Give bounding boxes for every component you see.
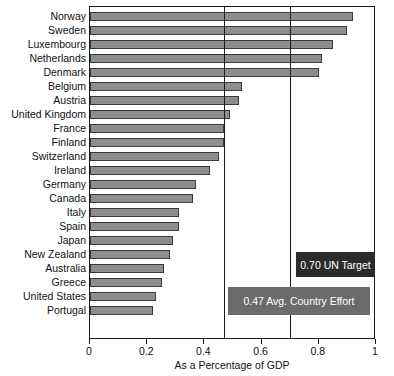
bar bbox=[90, 236, 173, 245]
y-axis-label: Japan bbox=[0, 233, 86, 247]
x-axis-tick-label: 0.4 bbox=[183, 345, 223, 357]
y-axis-label: France bbox=[0, 121, 86, 135]
bar bbox=[90, 138, 224, 147]
y-axis-label: Italy bbox=[0, 205, 86, 219]
bar bbox=[90, 124, 224, 133]
bar bbox=[90, 26, 347, 35]
reference-line-avg-country-effort bbox=[224, 7, 225, 338]
bar bbox=[90, 250, 170, 259]
bar bbox=[90, 82, 242, 91]
annotation-un-target-label: 0.70 UN Target bbox=[300, 259, 370, 271]
x-axis-tick-label: 0.8 bbox=[298, 345, 338, 357]
y-axis-label: Switzerland bbox=[0, 149, 86, 163]
bar bbox=[90, 166, 210, 175]
bar bbox=[90, 194, 193, 203]
y-axis-label: Belgium bbox=[0, 79, 86, 93]
x-axis-tick bbox=[261, 339, 262, 344]
bar bbox=[90, 96, 239, 105]
y-axis-label: Greece bbox=[0, 275, 86, 289]
bar bbox=[90, 306, 153, 315]
y-axis-label: Finland bbox=[0, 135, 86, 149]
x-axis-tick bbox=[203, 339, 204, 344]
y-axis-label: Denmark bbox=[0, 65, 86, 79]
bar bbox=[90, 264, 164, 273]
bar bbox=[90, 12, 353, 21]
bar bbox=[90, 152, 219, 161]
y-axis-label: Austria bbox=[0, 93, 86, 107]
bar bbox=[90, 292, 156, 301]
bar bbox=[90, 68, 319, 77]
bar bbox=[90, 54, 322, 63]
x-axis-tick-label: 0.6 bbox=[241, 345, 281, 357]
bar bbox=[90, 180, 196, 189]
x-axis-tick bbox=[146, 339, 147, 344]
x-axis-tick-label: 1 bbox=[355, 345, 394, 357]
y-axis-label: Luxembourg bbox=[0, 37, 86, 51]
y-axis-label: Australia bbox=[0, 261, 86, 275]
annotation-avg-country-effort-label: 0.47 Avg. Country Effort bbox=[243, 295, 354, 307]
bar bbox=[90, 278, 162, 287]
y-axis-label: Germany bbox=[0, 177, 86, 191]
y-axis-label: Netherlands bbox=[0, 51, 86, 65]
y-axis-label: New Zealand bbox=[0, 247, 86, 261]
bar bbox=[90, 208, 179, 217]
annotation-avg-country-effort: 0.47 Avg. Country Effort bbox=[228, 287, 370, 315]
x-axis-title: As a Percentage of GDP bbox=[89, 359, 375, 371]
x-axis-tick bbox=[89, 339, 90, 344]
y-axis-label: Canada bbox=[0, 191, 86, 205]
bar bbox=[90, 110, 230, 119]
y-axis-label: Sweden bbox=[0, 23, 86, 37]
y-axis-label: Ireland bbox=[0, 163, 86, 177]
y-axis-label: Portugal bbox=[0, 303, 86, 317]
bar bbox=[90, 222, 179, 231]
annotation-un-target: 0.70 UN Target bbox=[296, 252, 375, 277]
y-axis-label: United Kingdom bbox=[0, 107, 86, 121]
y-axis-label: United States bbox=[0, 289, 86, 303]
x-axis-tick bbox=[375, 339, 376, 344]
y-axis-label: Norway bbox=[0, 9, 86, 23]
y-axis-label: Spain bbox=[0, 219, 86, 233]
bar bbox=[90, 40, 333, 49]
x-axis-tick bbox=[318, 339, 319, 344]
x-axis-tick-label: 0 bbox=[69, 345, 109, 357]
aid-gdp-bar-chart: NorwaySwedenLuxembourgNetherlandsDenmark… bbox=[0, 0, 394, 376]
x-axis-tick-label: 0.2 bbox=[126, 345, 166, 357]
